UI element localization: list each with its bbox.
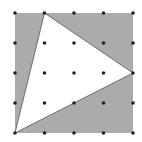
- grid-dot: [72, 101, 76, 105]
- grid-dot: [43, 131, 47, 135]
- grid-dot: [102, 131, 106, 135]
- grid-dot: [102, 71, 106, 75]
- grid-dot: [43, 71, 47, 75]
- grid-dot: [102, 41, 106, 45]
- grid-dot: [13, 41, 17, 45]
- grid-dot: [131, 11, 135, 15]
- grid-dot: [72, 11, 76, 15]
- grid-dot: [43, 101, 47, 105]
- grid-dot: [72, 71, 76, 75]
- grid-dot: [131, 131, 135, 135]
- grid-dot: [13, 101, 17, 105]
- grid-dot: [131, 71, 135, 75]
- grid-dot: [131, 41, 135, 45]
- grid-dot: [72, 131, 76, 135]
- grid-dot: [43, 41, 47, 45]
- grid-dot: [72, 41, 76, 45]
- grid-dot: [13, 71, 17, 75]
- grid-dot: [13, 131, 17, 135]
- grid-dot: [102, 11, 106, 15]
- grid-dot: [13, 11, 17, 15]
- grid-dot: [131, 101, 135, 105]
- grid-dot: [43, 11, 47, 15]
- grid-dot: [102, 101, 106, 105]
- grid-triangle-diagram: [0, 0, 142, 142]
